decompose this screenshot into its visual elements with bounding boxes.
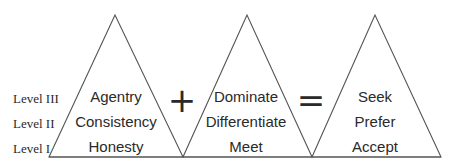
level-label-2: Level II (13, 116, 55, 131)
triangle-3-word-top: Seek (358, 88, 393, 105)
triangle-character (49, 15, 183, 157)
pyramid-equation-diagram: Level III Level II Level I Agentry Consi… (0, 0, 449, 167)
triangle-2-word-bottom: Meet (229, 138, 263, 155)
level-label-1: Level I (13, 141, 50, 156)
level-label-3: Level III (13, 91, 59, 106)
equals-operator: = (297, 80, 326, 120)
triangle-1-word-top: Agentry (90, 88, 142, 105)
triangle-1-word-bottom: Honesty (88, 138, 144, 155)
triangle-2-word-middle: Differentiate (206, 113, 287, 130)
triangle-result (312, 15, 441, 157)
triangle-behavior (183, 15, 312, 157)
triangle-1-word-middle: Consistency (75, 113, 157, 130)
plus-operator: + (168, 80, 197, 120)
triangle-3-word-bottom: Accept (352, 138, 399, 155)
triangle-3-word-middle: Prefer (355, 113, 396, 130)
triangle-2-word-top: Dominate (214, 88, 278, 105)
